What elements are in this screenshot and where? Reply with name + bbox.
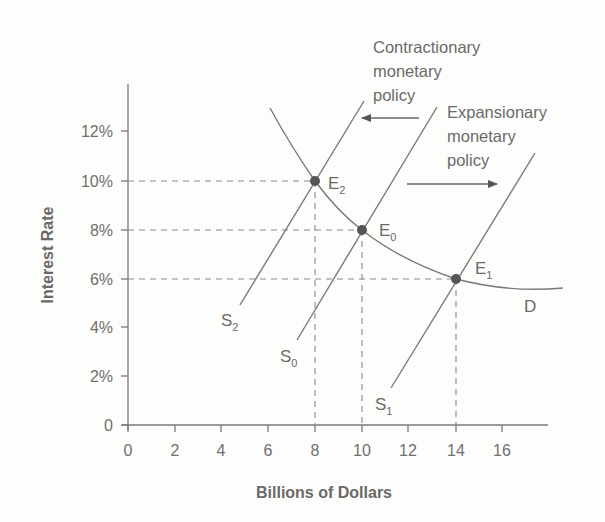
x-tick-label: 0 [124,442,133,459]
x-axis-title: Billions of Dollars [256,484,392,501]
supply-curve-s0 [297,107,437,340]
y-tick-label: 12% [81,123,113,140]
expansionary-line2: monetary [447,127,517,145]
contractionary-line1: Contractionary [373,38,481,56]
x-tick-label: 12 [399,442,417,459]
label-d: D [524,297,536,316]
x-tick-label: 16 [493,442,511,459]
y-axis-title: Interest Rate [39,206,56,303]
x-tick-label: 4 [217,442,226,459]
supply-curve-s1 [391,153,535,388]
contractionary-line2: monetary [373,62,443,80]
guide-lines [128,181,456,425]
money-market-chart: 0 2% 4% 6% 8% 10% 12% 0 2 4 6 8 10 12 14… [0,0,605,522]
x-tick-label: 6 [264,442,273,459]
equilibrium-point-e0 [357,225,367,235]
y-tick-label: 2% [90,368,113,385]
y-tick-label: 8% [90,222,113,239]
label-s0: S0 [280,347,297,369]
x-ticks [128,425,502,432]
x-tick-label: 8 [311,442,320,459]
axes: 0 2% 4% 6% 8% 10% 12% 0 2 4 6 8 10 12 14… [39,84,548,501]
y-tick-label: 4% [90,319,113,336]
y-tick-label: 0 [104,417,113,434]
label-s1: S1 [375,395,392,417]
x-tick-label: 14 [447,442,465,459]
supply-curve-s2 [240,101,364,305]
label-e2: E2 [328,174,345,196]
expansionary-annotation: Expansionary monetary policy [407,103,548,184]
label-e0: E0 [379,221,396,243]
y-tick-label: 6% [90,271,113,288]
label-s2: S2 [221,311,238,333]
expansionary-line1: Expansionary [447,103,548,121]
y-tick-labels: 0 2% 4% 6% 8% 10% 12% [81,123,113,434]
demand-curve-d [270,108,563,289]
y-tick-label: 10% [81,173,113,190]
equilibrium-point-e1 [451,274,461,284]
x-tick-label: 2 [171,442,180,459]
x-tick-label: 10 [353,442,371,459]
y-ticks [121,131,128,425]
x-tick-labels: 0 2 4 6 8 10 12 14 16 [124,442,511,459]
label-e1: E1 [475,259,492,281]
equilibrium-point-e2 [310,176,320,186]
contractionary-line3: policy [373,86,416,104]
expansionary-line3: policy [447,151,490,169]
